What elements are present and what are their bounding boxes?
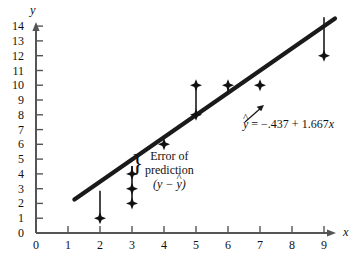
data-point — [126, 183, 138, 195]
equation-yhat-symbol: ^y — [243, 118, 248, 131]
regression-equation-annotation: ^y = −.437 + 1.667x — [243, 118, 334, 131]
x-axis-title: x — [343, 226, 349, 239]
x-tick-label: 5 — [188, 239, 204, 251]
data-point — [94, 212, 106, 224]
x-tick-label: 0 — [28, 239, 44, 251]
hat-accent-icon: ^ — [243, 112, 248, 123]
hat-accent-icon: ^ — [176, 172, 181, 183]
equation-body: = −.437 + 1.667 — [248, 117, 328, 131]
error-yhat-symbol: ^y — [176, 177, 181, 191]
error-label-line2: prediction — [145, 163, 194, 177]
x-tick-label: 4 — [156, 239, 172, 251]
y-tick-label: 2 — [6, 197, 24, 209]
y-tick-label: 10 — [6, 79, 24, 91]
y-tick-label: 12 — [6, 50, 24, 62]
y-tick-label: 4 — [6, 168, 24, 180]
x-tick-label: 2 — [92, 239, 108, 251]
y-tick-label: 8 — [6, 109, 24, 121]
y-axis-title: y — [30, 4, 36, 17]
error-of-prediction-annotation: Error of prediction (y − ^y) — [145, 149, 194, 191]
y-tick-label: 9 — [6, 94, 24, 106]
x-axis-ticks — [36, 226, 324, 233]
regression-line — [74, 19, 335, 200]
equation-x-var: x — [329, 117, 334, 131]
y-tick-label: 1 — [6, 212, 24, 224]
data-point — [126, 197, 138, 209]
regression-scatter-figure: 14 13 12 11 10 9 8 7 6 5 4 3 2 1 0 0 1 2… — [0, 0, 358, 258]
y-tick-label: 7 — [6, 124, 24, 136]
data-point — [190, 79, 202, 91]
y-axis-ticks — [36, 26, 43, 233]
error-label-line1: Error of — [145, 149, 194, 163]
data-point — [318, 50, 330, 62]
y-tick-label: 14 — [6, 20, 24, 32]
x-tick-label: 7 — [252, 239, 268, 251]
x-tick-label: 3 — [124, 239, 140, 251]
y-tick-label: 11 — [6, 65, 24, 77]
error-label-line3: (y − ^y) — [145, 177, 194, 191]
y-tick-label: 13 — [6, 35, 24, 47]
x-tick-label: 6 — [220, 239, 236, 251]
x-tick-label: 9 — [316, 239, 332, 251]
error-brace-glyph: } — [131, 150, 143, 176]
y-tick-label: 6 — [6, 138, 24, 150]
data-points-group — [94, 50, 330, 225]
y-tick-label: 0 — [6, 227, 24, 239]
y-tick-label: 5 — [6, 153, 24, 165]
y-tick-label: 3 — [6, 183, 24, 195]
x-tick-label: 1 — [60, 239, 76, 251]
data-point — [254, 79, 266, 91]
x-tick-label: 8 — [284, 239, 300, 251]
x-axis-arrow-icon — [327, 229, 336, 236]
